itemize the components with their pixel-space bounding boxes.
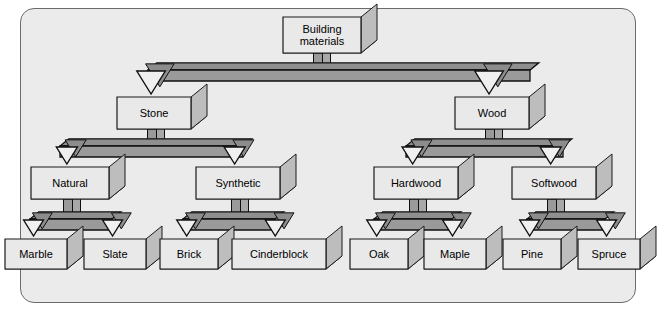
node-side-face [561, 226, 577, 269]
node-softwood[interactable] [512, 154, 612, 199]
connector-bar-front [60, 146, 243, 157]
node-front-face [31, 167, 109, 199]
node-marble[interactable] [5, 226, 83, 269]
node-side-face [486, 226, 502, 269]
connector-bar-front [406, 146, 563, 157]
node-building-materials[interactable] [283, 4, 377, 53]
node-side-face [109, 154, 125, 199]
node-hardwood[interactable] [374, 154, 474, 199]
node-front-face [196, 167, 280, 199]
node-front-face [283, 17, 361, 53]
node-synthetic[interactable] [196, 154, 296, 199]
node-spruce[interactable] [578, 226, 656, 269]
node-slate[interactable] [84, 226, 162, 269]
node-maple[interactable] [424, 226, 502, 269]
node-brick[interactable] [160, 226, 234, 269]
node-stone[interactable] [117, 84, 207, 129]
node-side-face [361, 4, 377, 53]
node-natural[interactable] [31, 154, 125, 199]
node-front-face [117, 97, 191, 129]
node-side-face [408, 226, 424, 269]
node-front-face [84, 239, 146, 269]
connector-bar-top [148, 63, 539, 70]
node-side-face [191, 84, 207, 129]
node-front-face [5, 239, 67, 269]
node-front-face [374, 167, 458, 199]
node-side-face [67, 226, 83, 269]
node-side-face [458, 154, 474, 199]
node-front-face [512, 167, 596, 199]
node-front-face [160, 239, 218, 269]
node-oak[interactable] [350, 226, 424, 269]
node-front-face [503, 239, 561, 269]
node-front-face [424, 239, 486, 269]
diagram-canvas: Building materialsStoneWoodNaturalSynthe… [0, 0, 658, 319]
node-side-face [326, 226, 342, 269]
node-wood[interactable] [455, 84, 545, 129]
connector-bar-top [60, 139, 252, 146]
node-side-face [280, 154, 296, 199]
node-side-face [596, 154, 612, 199]
node-front-face [350, 239, 408, 269]
diagram-graphics [0, 0, 658, 319]
node-front-face [232, 239, 326, 269]
node-side-face [640, 226, 656, 269]
node-pine[interactable] [503, 226, 577, 269]
node-cinderblock[interactable] [232, 226, 342, 269]
node-front-face [578, 239, 640, 269]
node-front-face [455, 97, 529, 129]
connector-bar-front [148, 70, 530, 81]
node-side-face [529, 84, 545, 129]
